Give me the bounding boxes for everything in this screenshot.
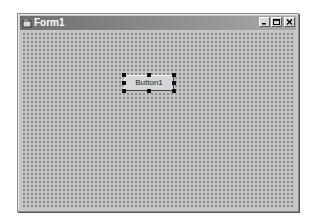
resize-handle-s[interactable]	[147, 89, 151, 93]
form-design-surface[interactable]: Button1	[21, 31, 295, 208]
minimize-icon	[260, 18, 269, 26]
minimize-button[interactable]	[259, 17, 270, 27]
maximize-button[interactable]	[271, 17, 282, 27]
resize-handle-sw[interactable]	[122, 89, 126, 93]
resize-handle-e[interactable]	[172, 81, 176, 85]
resize-handle-n[interactable]	[147, 73, 151, 77]
resize-handle-w[interactable]	[122, 81, 126, 85]
window-title: Form1	[34, 16, 65, 30]
resize-handle-ne[interactable]	[172, 73, 176, 77]
close-icon	[285, 18, 294, 26]
close-button[interactable]	[284, 17, 295, 27]
resize-handle-se[interactable]	[172, 89, 176, 93]
maximize-icon	[272, 18, 281, 26]
resize-handle-nw[interactable]	[122, 73, 126, 77]
title-bar[interactable]: Form1	[20, 16, 296, 30]
form-window[interactable]: Form1 Button1	[17, 13, 299, 212]
form-icon	[22, 18, 32, 28]
